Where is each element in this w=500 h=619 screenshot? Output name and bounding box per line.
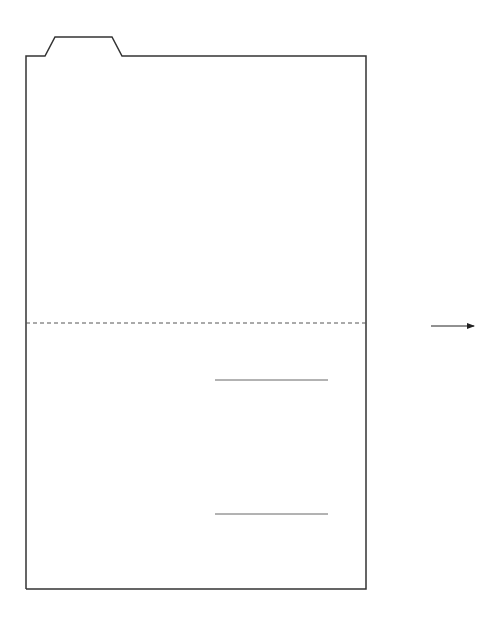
folder-diagram [0, 0, 500, 619]
folder-outline [26, 37, 366, 589]
